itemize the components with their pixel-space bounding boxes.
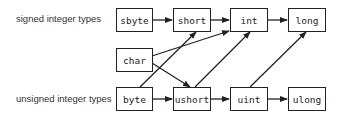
arrow-ushort-int	[195, 32, 250, 87]
node-short: short	[173, 8, 211, 32]
node-ulong: ulong	[288, 87, 326, 111]
integer-conversion-diagram: signed integer types unsigned integer ty…	[0, 0, 341, 119]
node-long: long	[288, 8, 326, 32]
arrow-char-ushort	[152, 63, 190, 87]
arrow-uint-long	[250, 32, 306, 87]
node-uint: uint	[230, 87, 268, 111]
node-byte: byte	[116, 87, 153, 111]
node-ushort: ushort	[173, 87, 211, 111]
arrow-char-int	[152, 31, 229, 56]
node-sbyte: sbyte	[116, 8, 153, 32]
node-int: int	[230, 8, 268, 32]
node-char: char	[116, 48, 153, 72]
